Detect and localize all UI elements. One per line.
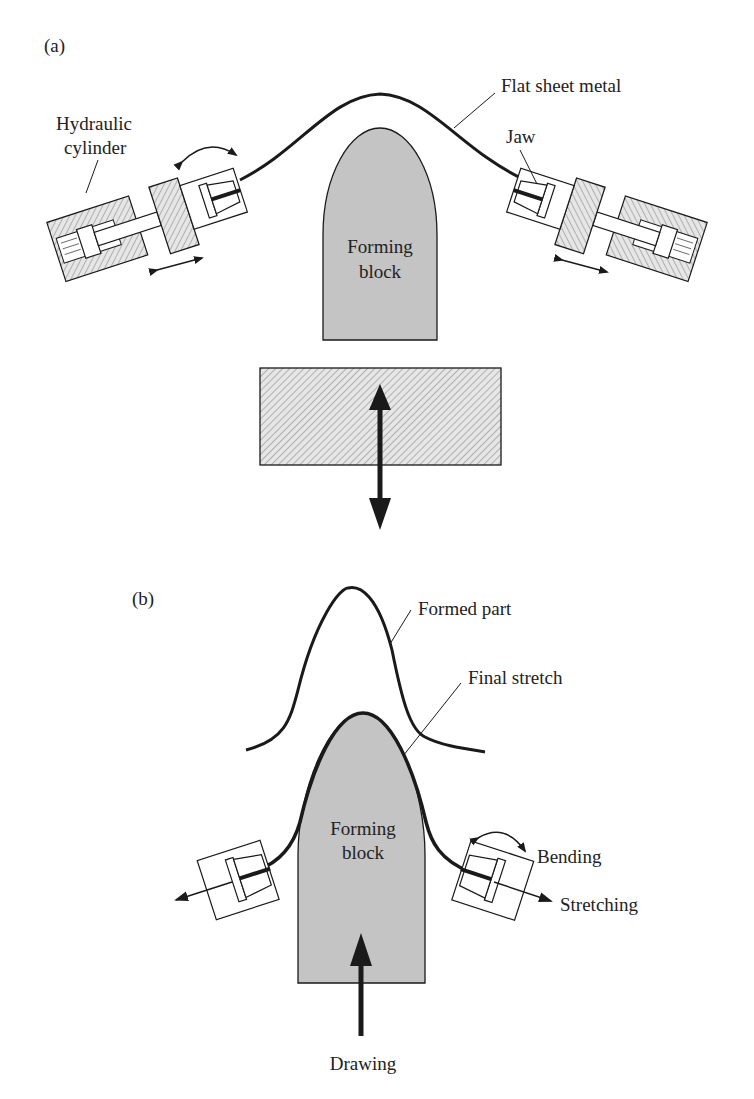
left-jaw-b bbox=[197, 840, 280, 920]
forming-block-a bbox=[323, 128, 437, 340]
stretch-forming-diagram: (a) Forming block bbox=[0, 0, 754, 1099]
hydraulic-cylinder-label-2: cylinder bbox=[64, 137, 127, 158]
hydraulic-cylinder-label-1: Hydraulic bbox=[56, 113, 132, 134]
forming-block-a-label-1: Forming bbox=[347, 236, 413, 257]
forming-block-b-label-2: block bbox=[342, 842, 385, 863]
right-jaw-assembly bbox=[502, 161, 708, 288]
stretching-label: Stretching bbox=[560, 894, 639, 915]
left-translation-arrow-icon bbox=[157, 258, 202, 270]
flat-sheet-metal-leader bbox=[454, 93, 495, 128]
right-translation-arrow-icon bbox=[562, 260, 607, 272]
left-jaw-assembly bbox=[46, 161, 252, 288]
left-rotation-arrow-icon bbox=[182, 147, 236, 162]
panel-a-tag: (a) bbox=[44, 35, 65, 57]
bending-label: Bending bbox=[537, 846, 602, 867]
flat-sheet-metal-label: Flat sheet metal bbox=[501, 75, 621, 96]
right-jaw-b bbox=[451, 841, 534, 921]
formed-part-leader bbox=[390, 610, 411, 644]
final-stretch-label: Final stretch bbox=[468, 667, 563, 688]
panel-b-tag: (b) bbox=[132, 588, 154, 610]
panel-a: (a) Forming block bbox=[44, 35, 708, 530]
forming-block-b-label-1: Forming bbox=[330, 818, 396, 839]
formed-part-label: Formed part bbox=[418, 598, 512, 619]
panel-b: (b) Forming block Drawing bbox=[132, 588, 639, 1074]
forming-block-a-label-2: block bbox=[359, 261, 402, 282]
drawing-label: Drawing bbox=[330, 1053, 397, 1074]
hydraulic-cylinder-leader bbox=[86, 160, 98, 193]
jaw-label: Jaw bbox=[506, 126, 536, 147]
